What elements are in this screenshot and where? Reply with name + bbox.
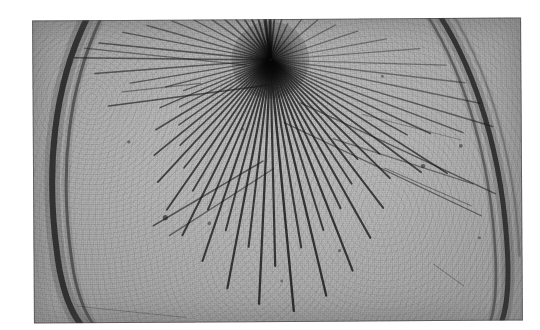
star-track-56 (123, 31, 268, 60)
emulsion-photograph (32, 18, 523, 324)
stray-right-edge-tick (434, 264, 464, 286)
star-track-11 (272, 59, 446, 66)
grain-blob-h (478, 236, 481, 239)
grain-blob-i (241, 128, 244, 131)
grain-blob-c (459, 144, 463, 148)
star-track-10 (272, 49, 420, 60)
stray-bottom-scratch (78, 306, 186, 319)
grain-blob-g (280, 279, 283, 282)
grain-blob-d (208, 222, 212, 226)
stray-lower-right (385, 168, 471, 207)
grain-blob-j (381, 75, 384, 78)
particle-tracks-overlay (32, 18, 523, 324)
grain-blob-a (163, 215, 168, 220)
star-tracks-group (74, 18, 494, 313)
photograph-plate: Nuclear emulsion / cloud chamber photogr… (0, 0, 540, 330)
grain-blob-e (338, 249, 341, 252)
image-caption: Nuclear emulsion / cloud chamber photogr… (0, 0, 1, 1)
stray-right-long-1 (301, 102, 496, 195)
grain-blob-f (127, 140, 130, 143)
stray-left-short (122, 83, 200, 91)
grain-blob-b (421, 164, 425, 168)
